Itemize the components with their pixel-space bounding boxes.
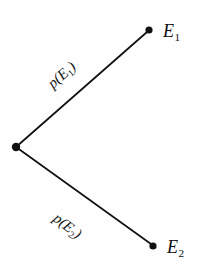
- node-label-e2: E2: [167, 238, 184, 256]
- probability-branch-diagram: E1 E2 p(E1) p(E2): [0, 0, 200, 273]
- node-dot-origin: [12, 143, 20, 151]
- node-label-e2-symbol: E: [167, 237, 178, 257]
- node-label-e1-symbol: E: [163, 21, 174, 41]
- node-label-e2-subscript: 2: [178, 247, 184, 259]
- node-label-e1: E1: [163, 22, 180, 40]
- node-dot-e1: [145, 26, 152, 33]
- node-label-e1-subscript: 1: [174, 31, 180, 43]
- branch-line-upper: [16, 32, 147, 147]
- node-dot-e2: [149, 242, 156, 249]
